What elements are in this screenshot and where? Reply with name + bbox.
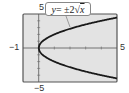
- y-max-label: 5: [39, 3, 44, 12]
- y-min-label: −5: [34, 84, 44, 93]
- x-max-label: 5: [120, 43, 125, 52]
- equation-mid: = ±2: [56, 4, 75, 15]
- equation-radicand: x: [80, 4, 84, 15]
- equation-callout: y = ±2√x: [45, 2, 91, 16]
- x-min-label: −1: [9, 43, 19, 52]
